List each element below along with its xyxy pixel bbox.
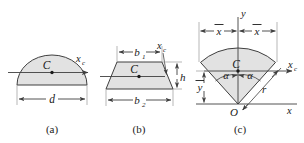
panel-c-radius-arrow-in [243,104,249,110]
panel-c-radius-arrow-out [272,71,278,78]
figure-container: C x c d (a) C x c b 1 [0,0,304,143]
panel-c-half-angle-left-label: α [223,70,229,81]
panel-b-axis-xc-label: x [156,40,162,51]
panel-c-ybar-label: y [197,81,203,93]
panel-c-y-axis-label: y [240,8,246,19]
panel-b-top-width-subscript: 1 [142,53,146,61]
panel-c-axis-xc-subscript: c [294,65,298,73]
panel-c-caption: (c) [234,123,247,136]
panel-a-axis-xc-subscript: c [82,59,86,67]
panel-a-caption: (a) [46,123,59,136]
panel-c-axis-xc-label: x [287,59,293,70]
panel-a: C x c d (a) [8,53,88,136]
panel-b-top-width-label: b [134,46,140,58]
panel-c-xbar-left-label: x [216,25,222,37]
panel-b-bottom-width-label: b [134,94,140,106]
panel-a-axis-xc-label: x [75,53,81,64]
panel-c-origin-label: O [230,106,238,118]
panel-c-radius-label: r [262,83,267,95]
panel-a-width-label: d [49,93,55,105]
panel-c-centroid-dot [236,69,239,72]
panel-b-height-label: h [180,71,186,83]
panel-b-centroid-label: C [130,63,138,75]
centroid-figure-svg: C x c d (a) C x c b 1 [0,0,304,143]
panel-b-centroid-dot [137,75,140,78]
panel-c-centroid-label: C [232,58,240,70]
panel-a-centroid-label: C [43,59,51,71]
panel-b-axis-xc-subscript: c [163,46,167,54]
panel-b-bottom-width-subscript: 2 [142,101,146,109]
panel-b: C x c b 1 b 2 h (b) [100,40,186,136]
panel-b-caption: (b) [133,123,146,136]
panel-a-centroid-dot [50,71,53,74]
panel-c-xbar-right-label: x [254,25,260,37]
panel-c-half-angle-right-label: α [247,70,253,81]
panel-c-x-axis-label: x [286,105,292,116]
